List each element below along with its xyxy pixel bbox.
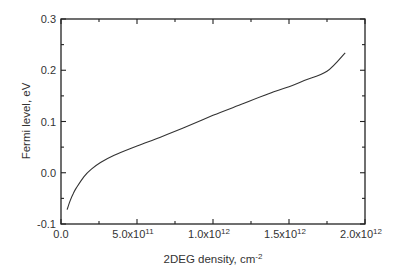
plot-frame: [61, 19, 365, 224]
major-ticks: [61, 19, 365, 224]
y-axis-title: Fermi level, eV: [20, 82, 32, 159]
y-tick-label: 0.0: [41, 167, 56, 179]
y-tick-label: 0.2: [41, 64, 56, 76]
minor-ticks: [61, 19, 365, 224]
x-tick-label: 0.0: [53, 228, 68, 240]
x-tick-label: 2.0x1012: [340, 227, 382, 240]
x-tick-label: 1.0x1012: [188, 227, 230, 240]
y-tick-labels: -0.10.00.10.20.3: [37, 13, 56, 230]
x-tick-labels: 0.05.0x10111.0x10121.5x10122.0x1012: [53, 227, 382, 240]
fermi-level-curve: [67, 53, 345, 210]
x-tick-label: 1.5x1012: [264, 227, 306, 240]
x-tick-label: 5.0x1011: [112, 227, 154, 240]
x-axis-title: 2DEG density, cm-2: [164, 252, 263, 265]
y-tick-label: 0.3: [41, 13, 56, 25]
y-tick-label: 0.1: [41, 116, 56, 128]
fermi-level-chart: -0.10.00.10.20.3 0.05.0x10111.0x10121.5x…: [0, 0, 403, 277]
